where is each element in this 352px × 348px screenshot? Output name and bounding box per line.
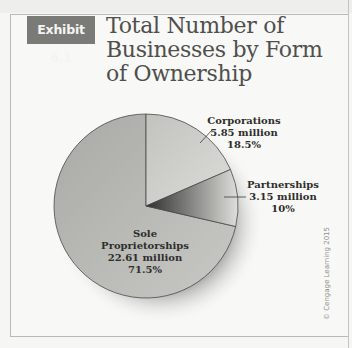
label-partnerships-name: Partnerships bbox=[242, 179, 324, 191]
label-sole-proprietorships: Sole Proprietorships 22.61 million 71.5% bbox=[95, 228, 195, 276]
label-corporations-pct: 18.5% bbox=[204, 139, 284, 151]
label-corporations-name: Corporations bbox=[204, 115, 284, 127]
label-sole-name-1: Sole bbox=[95, 228, 195, 240]
label-corporations: Corporations 5.85 million 18.5% bbox=[204, 115, 284, 151]
label-sole-name-2: Proprietorships bbox=[95, 240, 195, 252]
label-corporations-value: 5.85 million bbox=[204, 127, 284, 139]
label-sole-value: 22.61 million bbox=[95, 252, 195, 264]
label-sole-pct: 71.5% bbox=[95, 264, 195, 276]
label-partnerships: Partnerships 3.15 million 10% bbox=[242, 179, 324, 215]
label-partnerships-pct: 10% bbox=[242, 203, 324, 215]
label-partnerships-value: 3.15 million bbox=[242, 191, 324, 203]
copyright-credit: © Cengage Learning 2015 bbox=[323, 227, 331, 320]
pie-chart bbox=[0, 0, 352, 348]
